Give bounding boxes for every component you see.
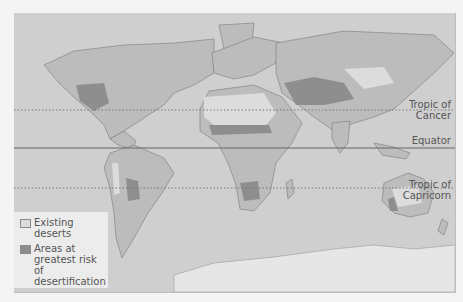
legend-text: desertification [20, 276, 108, 287]
existing-deserts-swatch [20, 219, 31, 228]
label-line: Cancer [409, 110, 451, 121]
tropic-of-cancer-label: Tropic of Cancer [409, 99, 451, 121]
label-line: Equator [412, 135, 451, 146]
legend-item-desertification-risk: Areas at greatest risk of desertificatio… [20, 243, 108, 287]
label-line: Tropic of [409, 99, 451, 110]
map-legend: Existing deserts Areas at greatest risk … [14, 212, 108, 288]
label-line: Tropic of [403, 179, 451, 190]
tropic-of-capricorn-label: Tropic of Capricorn [403, 179, 451, 201]
equator-label: Equator [412, 135, 451, 146]
legend-text: deserts [20, 228, 74, 239]
legend-text: greatest risk of [20, 254, 108, 276]
risk-areas-swatch [20, 245, 31, 254]
legend-item-existing-deserts: Existing deserts [20, 217, 74, 239]
world-map: Tropic of Cancer Equator Tropic of Capri… [14, 13, 456, 293]
legend-text: Areas at [20, 243, 108, 254]
label-line: Capricorn [403, 190, 451, 201]
